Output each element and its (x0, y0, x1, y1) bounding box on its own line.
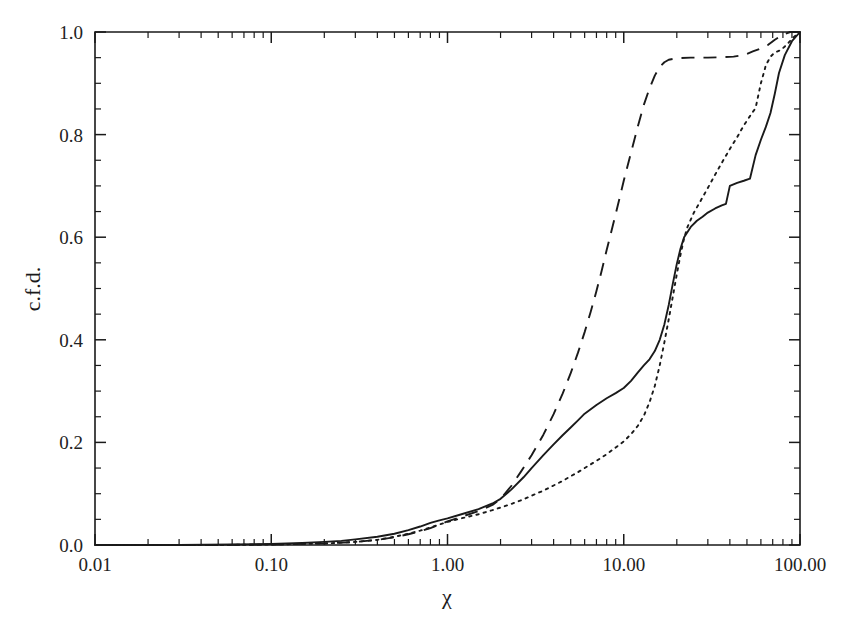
y-tick-label: 0.4 (59, 330, 83, 351)
series-dashed (95, 32, 800, 545)
y-tick-label: 0.8 (59, 125, 83, 146)
x-tick-label: 0.10 (255, 554, 288, 575)
plot-frame (95, 32, 800, 545)
y-tick-label: 0.6 (59, 227, 83, 248)
series-solid (95, 32, 800, 545)
y-tick-label: 0.0 (59, 535, 83, 556)
figure-container: 0.010.101.0010.00100.000.00.20.40.60.81.… (0, 0, 852, 625)
y-tick-label: 1.0 (59, 22, 83, 43)
axis-ticks (95, 32, 800, 545)
x-tick-label: 0.01 (78, 554, 111, 575)
x-tick-label: 100.00 (774, 554, 826, 575)
y-axis-title: c.f.d. (20, 267, 45, 312)
y-tick-label: 0.2 (59, 432, 83, 453)
axis-frame (95, 32, 800, 545)
x-tick-label: 10.00 (602, 554, 645, 575)
series-curves (95, 32, 800, 545)
axis-tick-labels: 0.010.101.0010.00100.000.00.20.40.60.81.… (59, 22, 826, 575)
x-tick-label: 1.00 (431, 554, 464, 575)
cfd-line-chart: 0.010.101.0010.00100.000.00.20.40.60.81.… (0, 0, 852, 625)
x-axis-title: χ (441, 584, 452, 609)
series-dotted (95, 32, 800, 545)
